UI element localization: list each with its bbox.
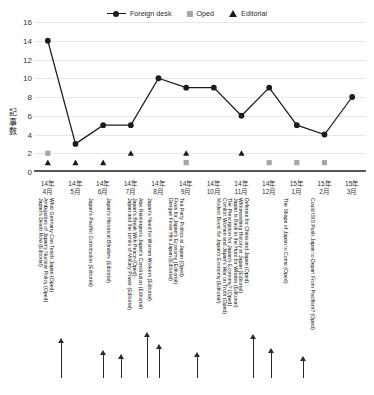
annotation-label: Japan's Historical Blinders (Editorial) <box>105 198 110 283</box>
annotation-label: Japan and the Limits of Military Power (… <box>126 198 131 310</box>
data-point-foreign-desk <box>156 75 162 81</box>
chart-root: Foreign desk Oped Editorial 記事数 02468101… <box>0 0 374 395</box>
y-tick-16: 16 <box>16 18 32 27</box>
x-tick-label: 15年2月 <box>317 180 331 195</box>
data-point-foreign-desk <box>239 113 245 119</box>
annotation-label: Tea Party Politics in Japan (Oped) <box>178 198 183 277</box>
series-layer <box>34 22 366 174</box>
annotation-label: Japan Is Back in the Hunt for Whales (Ed… <box>232 198 237 307</box>
annotation-arrow <box>300 356 307 378</box>
annotation-arrow <box>250 334 257 378</box>
data-point-editorial <box>128 150 134 156</box>
annotation-arrow <box>118 354 125 378</box>
data-point-foreign-desk <box>128 122 134 128</box>
data-point-foreign-desk <box>266 85 272 91</box>
square-marker-icon <box>187 11 193 17</box>
data-point-oped <box>322 160 327 165</box>
legend-item-editorial[interactable]: Editorial <box>229 9 267 18</box>
annotation-label: Defense for China and Japan (Oped) <box>243 198 248 283</box>
legend-item-foreign-desk[interactable]: Foreign desk <box>107 9 172 18</box>
data-point-foreign-desk <box>349 94 355 100</box>
annotation-arrows <box>0 300 374 395</box>
annotation-label: Japan's Death Row (Editorial) <box>37 198 42 267</box>
x-tick-label: 14年7月 <box>124 180 138 195</box>
annotation-label: Ambiguities of Japan's Nuclear Policy (O… <box>43 198 48 302</box>
x-tick-label: 14年12月 <box>262 180 276 195</box>
data-point-editorial <box>238 150 244 156</box>
annotation-label: Abe Reinterprets Japan's Constitution (E… <box>137 198 142 309</box>
data-point-editorial <box>183 150 189 156</box>
x-tick-label: 14年6月 <box>96 180 110 195</box>
annotation-arrow <box>268 348 275 378</box>
y-axis-ticks: 0246810121416 <box>14 22 32 172</box>
data-point-oped <box>184 160 189 165</box>
data-point-editorial <box>45 160 51 166</box>
legend-label-oped: Oped <box>197 9 215 18</box>
series-line-foreign-desk <box>48 41 352 144</box>
data-point-foreign-desk <box>294 122 300 128</box>
x-tick-label: 14年10月 <box>207 180 221 195</box>
x-tick-label: 15年3月 <box>345 180 359 195</box>
legend-label-foreign-desk: Foreign desk <box>130 9 172 18</box>
x-tick-label: 14年9月 <box>179 180 193 195</box>
y-tick-10: 10 <box>16 74 32 83</box>
y-tick-4: 4 <box>16 130 32 139</box>
y-tick-12: 12 <box>16 55 32 64</box>
annotation-arrow <box>144 332 151 378</box>
plot-area: 記事数 0246810121416 <box>0 22 374 177</box>
annotation-label: Japan's Need for Women Workers (Editoria… <box>147 198 152 301</box>
line-circle-marker-icon <box>107 10 126 18</box>
data-point-foreign-desk <box>183 85 189 91</box>
annotation-label: Japan's Break With Peace (Oped) <box>132 198 137 276</box>
annotation-label: The Shape of Japan to Come (Oped) <box>283 198 288 283</box>
data-point-foreign-desk <box>211 85 217 91</box>
x-tick-label: 14年11月 <box>234 180 248 195</box>
annotation-label: Fixes for Japan's Economy (Editorial) <box>173 198 178 284</box>
data-point-editorial <box>72 160 78 166</box>
legend-item-oped[interactable]: Oped <box>187 9 215 18</box>
y-tick-14: 14 <box>16 36 32 45</box>
x-tick-label: 15年1月 <box>290 180 304 195</box>
data-point-oped <box>294 160 299 165</box>
x-tick-label: 14年5月 <box>68 180 82 195</box>
data-point-foreign-desk <box>100 122 106 128</box>
data-point-foreign-desk <box>45 38 51 44</box>
chart-legend: Foreign desk Oped Editorial <box>0 9 374 18</box>
annotation-arrow <box>58 338 65 378</box>
data-point-foreign-desk <box>73 141 79 147</box>
annotation-label: Whitewashing History in Japan (Editorial… <box>238 198 243 293</box>
y-tick-8: 8 <box>16 93 32 102</box>
x-tick-label: 14年4月 <box>41 180 55 195</box>
annotation-arrow <box>100 350 107 378</box>
annotation-label: Dengue Fever Hits Japan (Editorial) <box>167 198 172 281</box>
annotation-label: Comfort Women and Japan's War on Truth (… <box>221 198 226 314</box>
data-point-oped <box>45 151 50 156</box>
y-tick-2: 2 <box>16 149 32 158</box>
annotation-label: What Germany Can Teach Japan (Oped) <box>48 198 53 292</box>
legend-label-editorial: Editorial <box>241 9 267 18</box>
annotation-label: The Prescription for Japan's Economy? (O… <box>227 198 232 306</box>
annotation-label: Modest Boost for Japan's Economy (Editor… <box>216 198 221 303</box>
data-point-foreign-desk <box>322 132 328 138</box>
x-tick-label: 14年8月 <box>151 180 165 195</box>
annotation-label: Japan's Pacifist Constitution (Editorial… <box>88 198 93 287</box>
annotation-arrow <box>156 344 163 378</box>
y-tick-0: 0 <box>16 168 32 177</box>
triangle-marker-icon <box>229 10 237 17</box>
data-point-oped <box>267 160 272 165</box>
y-tick-6: 6 <box>16 111 32 120</box>
annotation-arrow <box>194 352 201 378</box>
data-point-editorial <box>100 160 106 166</box>
